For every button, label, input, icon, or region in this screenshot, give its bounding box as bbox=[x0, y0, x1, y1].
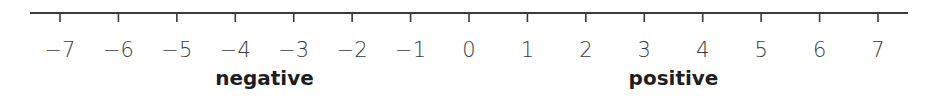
tick-label: 4 bbox=[696, 38, 709, 62]
tick-label: 7 bbox=[871, 38, 884, 62]
tick-label: −4 bbox=[220, 38, 251, 62]
number-line: −7−6−5−4−3−2−101234567 negativepositive bbox=[0, 0, 929, 98]
tick-label: −1 bbox=[395, 38, 426, 62]
tick-label: 2 bbox=[579, 38, 592, 62]
tick-label: −5 bbox=[161, 38, 192, 62]
tick-label: −7 bbox=[45, 38, 76, 62]
positive-region-label: positive bbox=[629, 66, 719, 90]
tick-label: −6 bbox=[103, 38, 134, 62]
tick-label: 1 bbox=[521, 38, 534, 62]
tick-label: 0 bbox=[462, 38, 475, 62]
tick-label: 3 bbox=[638, 38, 651, 62]
region-labels-group: negativepositive bbox=[215, 66, 718, 90]
tick-labels-group: −7−6−5−4−3−2−101234567 bbox=[45, 38, 885, 62]
tick-label: 5 bbox=[754, 38, 767, 62]
negative-region-label: negative bbox=[215, 66, 314, 90]
tick-label: 6 bbox=[813, 38, 826, 62]
ticks-group bbox=[60, 13, 878, 22]
tick-label: −2 bbox=[337, 38, 368, 62]
tick-label: −3 bbox=[278, 38, 309, 62]
